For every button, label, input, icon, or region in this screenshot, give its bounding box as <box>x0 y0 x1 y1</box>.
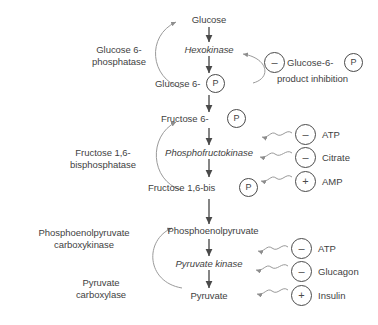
regulator-label-pk-1: Glucagon <box>318 266 359 277</box>
regulator-sign-pk-0: – <box>291 238 312 259</box>
phosphate-tag-fructose-6p: P <box>227 109 246 128</box>
regulator-label-pfk-0: ATP <box>322 129 340 140</box>
enzyme-glucose-6-phosphatase-line1: Glucose 6- <box>96 44 141 56</box>
enzyme-phosphofructokinase: Phosphofructokinase <box>165 147 253 159</box>
regulator-label-pfk-2: AMP <box>322 176 343 187</box>
product-inhibition-curve <box>243 54 265 83</box>
enzyme-pyruvate-carboxylase-line1: Pyruvate <box>82 277 119 289</box>
enzyme-pepck-line1: Phosphoenolpyruvate <box>39 227 130 239</box>
regulator-label-pk-0: ATP <box>318 243 336 254</box>
metabolite-glucose: Glucose <box>192 14 227 26</box>
phosphate-tag-fructose-1-6-bis: P <box>239 178 258 197</box>
regulator-sign-pk-1: – <box>291 261 312 282</box>
enzyme-fructose-bisphosphatase-line2: bisphosphatase <box>70 159 136 171</box>
enzyme-fructose-bisphosphatase-line1: Fructose 1,6- <box>75 147 130 159</box>
regulator-sign-pfk-2: + <box>295 171 316 192</box>
regulator-sign-glucose-6p: – <box>264 52 285 73</box>
enzyme-hexokinase: Hexokinase <box>184 44 233 56</box>
enzyme-pepck-line2: carboxykinase <box>54 239 114 251</box>
regulator-sign-pk-2: + <box>291 285 312 306</box>
enzyme-pyruvate-kinase: Pyruvate kinase <box>176 258 243 270</box>
metabolite-phosphoenolpyruvate: Phosphoenolpyruvate <box>168 225 259 237</box>
phosphate-tag-regulator-glucose-6p: P <box>344 53 363 72</box>
regulator-label-glucose-6p: Glucose-6- <box>287 57 333 68</box>
diagram-canvas: Glucose Hexokinase Glucose 6- P Glucose … <box>0 0 378 325</box>
regulator-sign-pfk-1: – <box>295 147 316 168</box>
metabolite-glucose-6-phosphate: Glucose 6- <box>155 78 200 90</box>
regulator-sign-pfk-0: – <box>295 124 316 145</box>
enzyme-glucose-6-phosphatase-line2: phosphatase <box>92 56 146 68</box>
regulator-label-pk-2: Insulin <box>318 290 345 301</box>
metabolite-fructose-6-phosphate: Fructose 6- <box>161 113 209 125</box>
metabolite-pyruvate: Pyruvate <box>190 290 227 302</box>
regulator-squiggles <box>256 132 292 295</box>
regulator-label-pfk-1: Citrate <box>322 152 350 163</box>
metabolite-fructose-1-6-bisphosphate: Fructose 1,6-bis <box>148 182 215 194</box>
regulator-caption-product-inhibition: product inhibition <box>277 73 348 85</box>
enzyme-pyruvate-carboxylase-line2: carboxylase <box>76 289 126 301</box>
phosphate-tag-glucose-6p: P <box>206 74 225 93</box>
